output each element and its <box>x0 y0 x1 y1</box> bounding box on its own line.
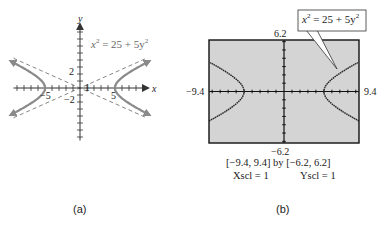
equation-label-a: x2 = 25 + 5y2 <box>91 38 148 50</box>
ymax-label: 6.2 <box>274 29 287 39</box>
figure-canvas <box>0 0 387 226</box>
ymin-label: −6.2 <box>271 147 289 157</box>
xmin-label: −9.4 <box>186 87 204 97</box>
tick-label-y-2: 2 <box>69 67 74 77</box>
tick-label-x-neg5: −5 <box>40 91 51 101</box>
y-axis-label: y <box>78 14 82 24</box>
callout-equation: x2 = 25 + 5y2 <box>302 13 359 25</box>
yscl-label: Yscl = 1 <box>300 171 336 182</box>
caption-b: (b) <box>276 203 289 215</box>
callout-rhs: = 25 + 5y <box>310 13 355 25</box>
window-range: [−9.4, 9.4] by [−6.2, 6.2] <box>226 158 331 169</box>
x-axis-label: x <box>152 84 156 94</box>
tick-label-x-5: 5 <box>111 91 116 101</box>
xscl-label: Xscl = 1 <box>233 171 269 182</box>
tick-label-x-1: 1 <box>85 83 90 93</box>
caption-a: (a) <box>73 203 86 215</box>
tick-label-y-neg2: −2 <box>64 95 75 105</box>
eq-rhs: = 25 + 5y <box>99 38 144 50</box>
panel-b-calculator-screen <box>209 10 366 143</box>
xmax-label: 9.4 <box>364 87 377 97</box>
